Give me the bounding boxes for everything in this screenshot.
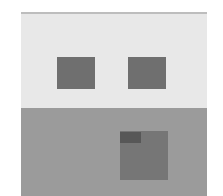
right-window	[128, 57, 166, 89]
upper-panel	[21, 14, 207, 108]
house-frame	[21, 12, 207, 196]
door	[120, 131, 168, 180]
door-tab	[120, 132, 141, 143]
lower-panel	[21, 108, 207, 196]
left-window	[57, 57, 95, 89]
